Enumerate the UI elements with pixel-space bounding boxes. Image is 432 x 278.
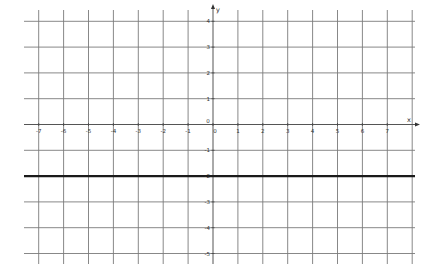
x-tick-label: -4 <box>111 128 117 134</box>
x-axis-label: x <box>407 116 411 124</box>
y-tick-label: -4 <box>205 225 211 231</box>
x-tick-label: -6 <box>61 128 67 134</box>
x-tick-label: -5 <box>86 128 92 134</box>
y-tick-label: 1 <box>207 96 211 102</box>
y-tick-label: 4 <box>207 18 211 24</box>
x-tick-label: 5 <box>336 128 340 134</box>
x-tick-label: -1 <box>185 128 190 134</box>
y-tick-label: 0 <box>206 118 210 124</box>
y-tick-label: 2 <box>207 70 211 76</box>
y-tick-label: -2 <box>205 173 210 179</box>
y-axis-arrow-icon <box>211 4 215 9</box>
x-tick-label: 6 <box>361 128 365 134</box>
coordinate-plane: xy-7-6-5-4-3-2-10123456743210-1-2-3-4-5 <box>0 0 432 278</box>
x-tick-label: 2 <box>261 128 265 134</box>
y-axis-label: y <box>216 6 220 14</box>
x-tick-label: -2 <box>160 128 165 134</box>
tick-labels: xy-7-6-5-4-3-2-10123456743210-1-2-3-4-5 <box>36 6 411 257</box>
horizontal-grid-lines <box>24 21 415 253</box>
vertical-grid-lines <box>39 10 413 264</box>
x-axis-arrow-icon <box>415 123 420 127</box>
x-tick-label: -3 <box>136 128 142 134</box>
x-tick-label: -7 <box>36 128 42 134</box>
y-tick-label: 3 <box>207 44 211 50</box>
axes <box>24 4 420 264</box>
x-tick-label: 1 <box>236 128 240 134</box>
y-tick-label: -1 <box>205 147 210 153</box>
x-tick-label: 4 <box>311 128 315 134</box>
x-tick-label: 3 <box>286 128 290 134</box>
x-tick-label: 0 <box>213 128 217 134</box>
y-tick-label: -3 <box>205 199 211 205</box>
y-tick-label: -5 <box>205 251 211 257</box>
x-tick-label: 7 <box>386 128 390 134</box>
